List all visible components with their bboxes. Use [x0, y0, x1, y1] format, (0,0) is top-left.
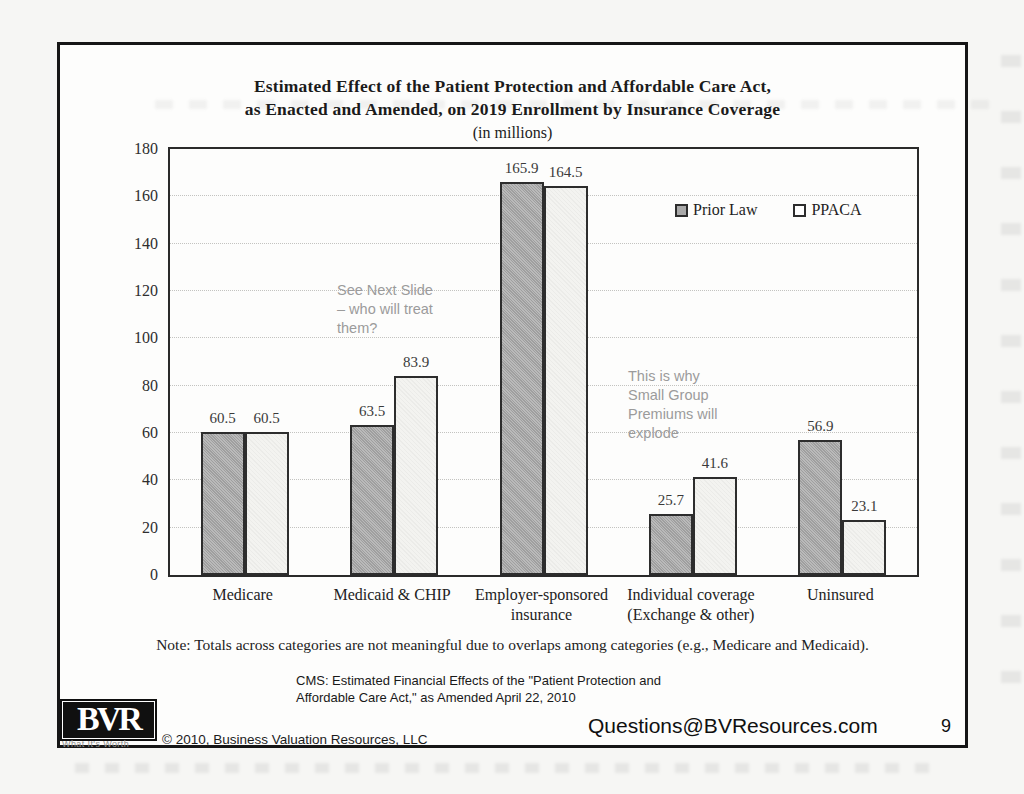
annotation-line: them?: [337, 319, 433, 338]
chart-legend: Prior LawPPACA: [675, 201, 862, 219]
copyright-text: © 2010, Business Valuation Resources, LL…: [162, 732, 428, 747]
annotation-line: Small Group: [628, 386, 717, 405]
legend-item-ppaca: PPACA: [793, 201, 861, 219]
annotation-line: Premiums will: [628, 405, 717, 424]
bar-ppaca: [544, 186, 588, 575]
annotation-line: – who will treat: [337, 300, 433, 319]
y-axis-tick-label: 40: [98, 471, 158, 489]
bar-ppaca: [693, 477, 737, 575]
chart-title-units: (in millions): [60, 122, 965, 143]
scan-artifact-bottom: [75, 763, 935, 773]
scan-artifact-right: [1001, 55, 1021, 715]
bar-ppaca: [245, 432, 289, 575]
bar-prior-law: [350, 425, 394, 575]
source-citation: CMS: Estimated Financial Effects of the …: [296, 672, 661, 706]
chart-title-line1: Estimated Effect of the Patient Protecti…: [60, 75, 965, 98]
bvr-logo-text: BVR: [60, 698, 157, 740]
annotation-line: explode: [628, 424, 717, 443]
y-axis-tick-label: 180: [98, 140, 158, 158]
y-axis-tick-label: 160: [98, 187, 158, 205]
annotation-line: See Next Slide: [337, 281, 433, 300]
source-line1: CMS: Estimated Financial Effects of the …: [296, 672, 661, 689]
y-axis-tick-label: 80: [98, 377, 158, 395]
annotation-see-next-slide: See Next Slide – who will treat them?: [337, 281, 433, 338]
annotation-line: This is why: [628, 367, 717, 386]
y-axis-tick-label: 140: [98, 235, 158, 253]
bvr-logo: BVR: [60, 699, 157, 741]
bar-ppaca: [842, 520, 886, 575]
y-axis: 020406080100120140160180: [98, 149, 158, 575]
chart-title-line2: as Enacted and Amended, on 2019 Enrollme…: [60, 98, 965, 121]
legend-item-prior-law: Prior Law: [675, 201, 757, 219]
contact-email: Questions@BVResources.com: [588, 714, 878, 738]
source-line2: Affordable Care Act," as Amended April 2…: [296, 689, 661, 706]
bar-prior-law: [201, 432, 245, 575]
legend-label: Prior Law: [693, 201, 757, 219]
y-axis-tick-label: 60: [98, 424, 158, 442]
annotation-small-group-premiums: This is why Small Group Premiums will ex…: [628, 367, 717, 443]
bar-value-label: 164.5: [536, 164, 596, 181]
legend-label: PPACA: [811, 201, 861, 219]
bar-ppaca: [394, 376, 438, 575]
bar-value-label: 23.1: [834, 498, 894, 515]
y-axis-tick-label: 120: [98, 282, 158, 300]
y-axis-tick-label: 20: [98, 519, 158, 537]
chart-title: Estimated Effect of the Patient Protecti…: [60, 75, 965, 143]
bar-prior-law: [649, 514, 693, 575]
bar-value-label: 83.9: [386, 354, 446, 371]
bvr-logo-tagline: What It's Worth: [62, 739, 172, 749]
x-axis-labels: MedicareMedicaid & CHIPEmployer-sponsore…: [168, 585, 915, 631]
plot-area: Prior LawPPACA 60.560.563.583.9165.9164.…: [168, 147, 919, 577]
y-axis-tick-label: 100: [98, 329, 158, 347]
bar-value-label: 63.5: [342, 403, 402, 420]
y-axis-tick-label: 0: [98, 566, 158, 584]
legend-swatch: [793, 204, 806, 217]
slide: Estimated Effect of the Patient Protecti…: [57, 42, 968, 748]
bar-value-label: 56.9: [790, 418, 850, 435]
bar-value-label: 60.5: [237, 410, 297, 427]
chart-note: Note: Totals across categories are not m…: [60, 636, 965, 654]
bar-value-label: 25.7: [641, 492, 701, 509]
page-number: 9: [941, 716, 951, 737]
bar-prior-law: [500, 182, 544, 575]
legend-swatch: [675, 204, 688, 217]
x-axis-category-label: Uninsured: [751, 585, 929, 605]
bar-value-label: 41.6: [685, 455, 745, 472]
